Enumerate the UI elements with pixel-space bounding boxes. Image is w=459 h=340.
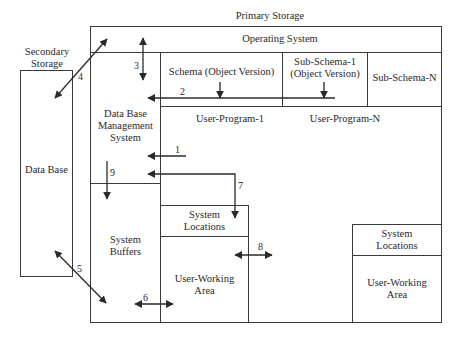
arrow-label-8: 8 xyxy=(258,241,263,252)
arrow-label-3: 3 xyxy=(134,60,139,71)
arrow-label-5: 5 xyxy=(77,263,82,274)
arrow-label-6: 6 xyxy=(143,292,148,303)
arrow-label-1: 1 xyxy=(175,144,180,155)
arrow-label-2: 2 xyxy=(180,86,185,97)
arrow-label-9: 9 xyxy=(110,167,115,178)
arrow-label-4: 4 xyxy=(78,71,83,82)
arrow-5 xyxy=(55,251,106,303)
data-flow-arrows xyxy=(0,0,459,340)
arrow-4 xyxy=(55,39,107,98)
arrow-7 xyxy=(148,174,235,218)
arrow-label-7: 7 xyxy=(238,180,243,191)
